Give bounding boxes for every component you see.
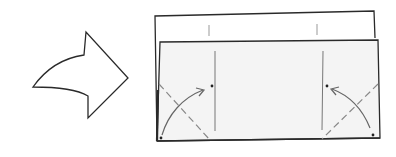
origami-diagram	[0, 0, 396, 157]
step-arrow-icon	[33, 32, 128, 118]
dot-left-target	[211, 85, 214, 88]
paper-front-layer	[157, 40, 380, 141]
dot-left-corner	[160, 137, 163, 140]
dot-right-corner	[372, 134, 375, 137]
dot-right-target	[326, 85, 329, 88]
